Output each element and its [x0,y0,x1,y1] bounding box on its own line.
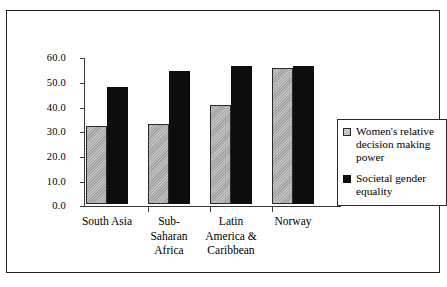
y-axis-tick [80,58,85,59]
y-axis-tick [80,182,85,183]
bar-sub-saharan-africa-societal-equality [169,71,190,204]
legend-item-womens-power: Women's relative decision making power [343,125,447,164]
y-axis-tick-label: 40.0 [6,103,66,113]
chart-frame: 60.0 50.0 40.0 30.0 20.0 10.0 0.0 South … [6,10,440,273]
x-axis-tick [148,207,149,212]
legend-item-label: Societal gender equality [356,172,447,198]
gray-square-icon [343,128,351,136]
bar-norway-societal-equality [293,66,314,204]
x-axis-tick [272,207,273,212]
y-axis-tick [80,132,85,133]
legend-item-societal-equality: Societal gender equality [343,172,447,198]
bar-latin-america-caribbean-societal-equality [231,66,252,204]
y-axis-tick-label: 10.0 [6,177,66,187]
bar-sub-saharan-africa-womens-power [148,124,169,204]
x-axis-line [84,206,341,207]
chart-legend: Women's relative decision making power S… [337,119,447,206]
plot-area: 60.0 50.0 40.0 30.0 20.0 10.0 0.0 South … [7,11,439,272]
y-axis-tick [80,108,85,109]
y-axis-tick [80,83,85,84]
y-axis-tick-label: 20.0 [6,152,66,162]
y-axis-tick [80,157,85,158]
y-axis-tick-label: 50.0 [6,78,66,88]
bar-norway-womens-power [272,68,293,204]
y-axis-tick-label: 0.0 [6,201,66,211]
bar-south-asia-womens-power [86,126,107,204]
y-axis-tick [80,206,85,207]
y-axis-tick-label: 60.0 [6,53,66,63]
x-axis-tick [210,207,211,212]
y-axis-tick-label: 30.0 [6,127,66,137]
black-square-icon [343,175,351,183]
bar-south-asia-societal-equality [107,87,128,204]
x-axis-category-label: Norway [249,214,337,229]
bar-latin-america-caribbean-womens-power [210,105,231,204]
legend-item-label: Women's relative decision making power [356,125,447,164]
